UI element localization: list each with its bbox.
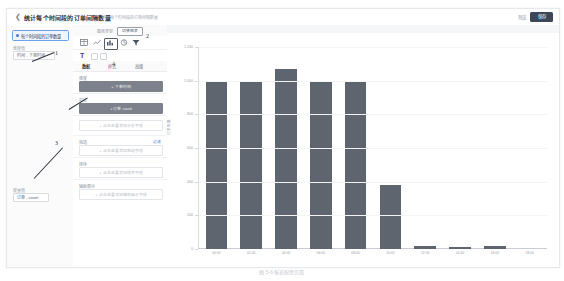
bar[interactable] [206,81,228,249]
save-button[interactable]: 保存 [530,12,553,22]
chart-toolbar [167,25,559,33]
gridline [199,215,547,216]
config-tabs: 数据 样式 高级 [73,61,167,72]
bar[interactable] [240,81,262,249]
page-subtitle: 统计每个时间段的订单间隔数量 [102,14,158,20]
bar[interactable] [310,82,332,249]
x-tick-label: 02:00 [234,251,269,255]
divider [73,115,167,116]
text-tool-icon[interactable]: T [80,52,84,59]
x-tick-label: 06:00 [303,251,338,255]
x-tick-label: 10:00 [373,251,408,255]
page-title: 统计每个时间段的订单间隔数量 [24,13,111,22]
gridline [199,182,547,183]
field-value-box[interactable]: + 下单时间 [79,81,163,92]
y-tick-mark [195,148,198,149]
chart-config-panel: 图表类型 切换图表 T 数 [73,25,168,267]
callout-2: 2 [146,33,149,39]
y-tick-mark [195,47,198,48]
callout-3: 3 [55,140,58,146]
tab-advanced[interactable]: 高级 [135,63,143,69]
divider [73,93,167,94]
field-value-box[interactable]: + 点击这里添加分析字段 [79,120,163,131]
figure-caption: 图 5-6 报表配置页面 [0,268,564,275]
y-tick-label: 1,200 [175,45,193,49]
dataset-dot-icon [16,34,19,37]
y-tick-label: 800 [175,112,193,116]
divider [73,157,167,158]
bar[interactable] [275,69,297,249]
chart-type-icon-row [73,36,167,50]
y-tick-label: 0 [175,247,193,251]
dataset-selected-label: 每个时间段的订单数量 [21,33,66,39]
gridline [199,81,547,82]
dimension-field-chip[interactable]: 时间 - 下单时间 [13,51,55,60]
dataset-sidebar: 每个时间段的订单数量 维度值 时间 - 下单时间 度量值 订单 - count [7,25,74,267]
callout-4: 4 [112,61,115,67]
app-header: ❮ 统计每个时间段的订单间隔数量 统计每个时间段的订单间隔数量 预览 保存 [7,9,559,26]
gridline [199,148,547,149]
chevron-left-icon[interactable]: ❮ [15,13,21,21]
gridline [199,114,547,115]
pie-chart-icon[interactable] [120,39,128,46]
y-tick-label: 400 [175,180,193,184]
x-tick-label: 00:00 [199,251,234,255]
y-tick-mark [195,114,198,115]
bar[interactable] [345,81,367,249]
filter-link[interactable]: 过滤 [153,139,161,144]
y-tick-label: 600 [175,146,193,150]
x-tick-label: 08:00 [338,251,373,255]
y-tick-mark [195,249,198,250]
chart-preview-panel: 订单数量 02004006008001,0001,20000:0002:0004… [167,25,559,267]
field-placeholder: + 点击这里添加排序字段 [80,170,162,175]
x-tick-label: 14:00 [443,251,478,255]
chart-type-label: 图表类型 [97,28,113,34]
field-value-box[interactable]: + 订单 count [79,103,163,114]
divider [73,135,167,136]
dataset-selected-card[interactable]: 每个时间段的订单数量 [12,30,69,41]
divider [73,179,167,180]
bar[interactable] [414,246,436,249]
x-tick-label: 12:00 [408,251,443,255]
x-tick-label: 16:00 [477,251,512,255]
bar[interactable] [449,247,471,249]
gridline [199,47,547,48]
field-placeholder: + 点击这里添加分析字段 [80,123,162,128]
bar-chart-icon[interactable] [106,39,114,46]
field-placeholder: + 点击这里添加筛选字段 [80,148,162,153]
y-tick-label: 200 [175,213,193,217]
field-value-box[interactable]: + 点击这里添加筛选字段 [79,145,163,156]
report-builder-window: ❮ 统计每个时间段的订单间隔数量 统计每个时间段的订单间隔数量 预览 保存 每个… [6,8,560,268]
y-tick-mark [195,81,198,82]
switch-chart-button[interactable]: 切换图表 [117,27,143,36]
align-left-icon[interactable] [91,53,98,60]
field-value-box[interactable]: + 点击这里添加辅助展示字段 [79,189,163,200]
field-value: + 订单 count [80,106,162,111]
table-icon[interactable] [80,39,88,46]
field-placeholder: + 点击这里添加辅助展示字段 [80,192,162,197]
field-value: + 下单时间 [80,84,162,89]
y-tick-label: 1,000 [175,79,193,83]
align-center-icon[interactable] [100,53,107,60]
y-tick-mark [195,215,198,216]
y-axis-title: 订单数量 [166,119,171,135]
tab-data[interactable]: 数据 [82,63,90,69]
field-value-box[interactable]: + 点击这里添加排序字段 [79,167,163,178]
callout-1: 1 [55,50,58,56]
bar[interactable] [380,185,402,249]
x-tick-label: 18:00 [512,251,547,255]
x-tick-label: 04:00 [269,251,304,255]
funnel-icon[interactable] [132,39,140,46]
bar[interactable] [484,246,506,249]
line-chart-icon[interactable] [93,39,101,46]
y-tick-mark [195,182,198,183]
measure-field-chip[interactable]: 订单 - count [13,193,49,202]
preview-link[interactable]: 预览 [518,14,526,20]
